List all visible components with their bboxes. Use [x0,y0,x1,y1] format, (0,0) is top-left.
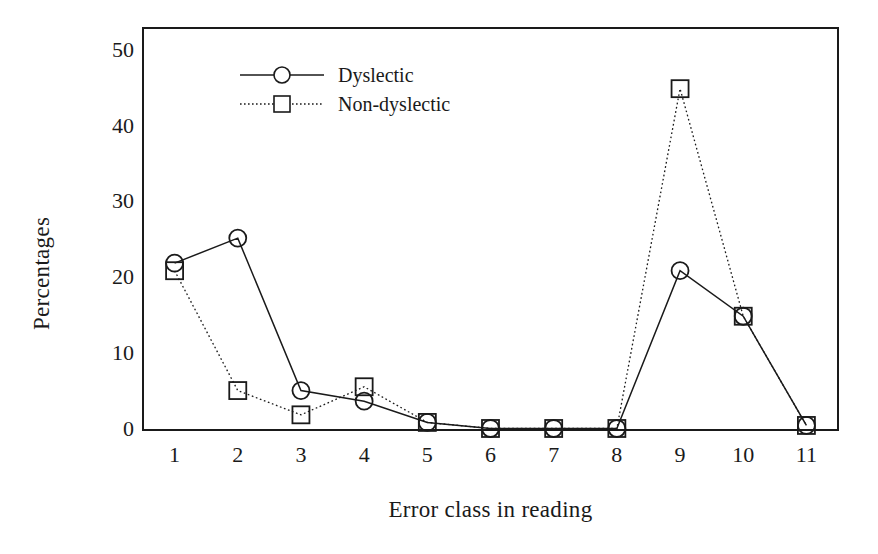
circle-marker [292,382,309,399]
square-marker [229,382,246,399]
square-marker [166,262,183,279]
square-marker [798,417,815,434]
series-line [175,238,807,428]
x-axis-title: Error class in reading [143,497,838,523]
square-marker [545,420,562,437]
circle-marker [229,230,246,247]
chart-legend: Dyslectic Non-dyslectic [232,62,492,124]
data-series-group [166,80,815,437]
legend-item-dyslectic: Dyslectic [232,62,492,88]
square-marker [292,406,309,423]
square-marker [735,308,752,325]
series-dyslectic [166,230,815,437]
legend-sample-solid-line-circle-icon [232,62,332,88]
series-line [175,89,807,429]
legend-label-dyslectic: Dyslectic [338,62,414,88]
legend-item-non-dyslectic: Non-dyslectic [232,91,492,117]
legend-label-non-dyslectic: Non-dyslectic [338,91,450,117]
square-marker [356,378,373,395]
square-marker [608,420,625,437]
square-marker [672,80,689,97]
legend-sample-dotted-line-square-icon [232,91,332,117]
chart-figure: Percentages 01020304050 1234567891011 Dy… [0,0,878,554]
square-marker [482,420,499,437]
series-non-dyslectic [166,80,815,437]
circle-marker [672,262,689,279]
square-marker [419,414,436,431]
